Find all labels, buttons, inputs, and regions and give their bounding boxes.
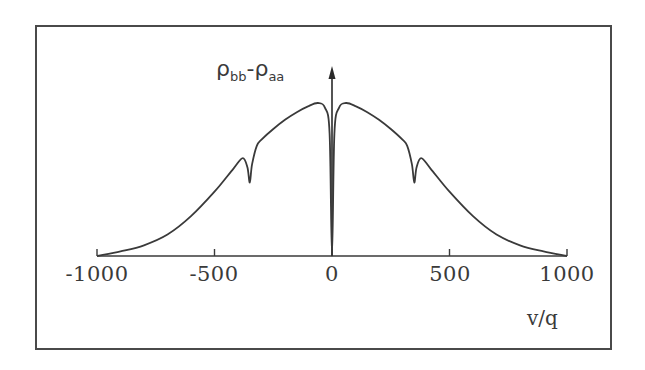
x-tick-label: -500: [189, 262, 238, 286]
x-tick-label: 1000: [539, 262, 594, 286]
y-axis-arrow-icon: [329, 66, 336, 79]
x-tick-label: -1000: [65, 262, 128, 286]
x-tick-label: 500: [429, 262, 471, 286]
y-label-sub-bb: bb: [230, 69, 247, 84]
x-tick-label: 0: [325, 262, 339, 286]
y-label-sub-aa: aa: [268, 69, 284, 84]
y-label-rho: ρ: [254, 56, 268, 81]
y-axis-label: ρbb-ρaa: [216, 56, 284, 84]
y-label-rho: ρ: [216, 56, 230, 81]
x-axis-label: v/q: [527, 306, 558, 330]
